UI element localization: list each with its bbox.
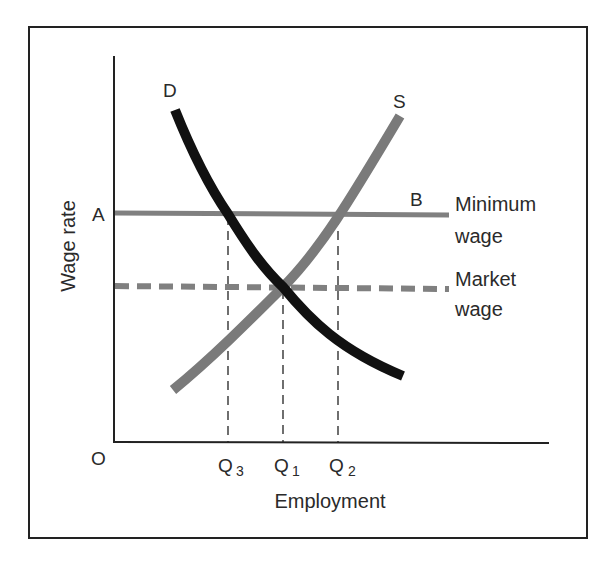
wage-diagram: D S A B Minimum wage Market wage O Q 3 Q…: [0, 0, 613, 564]
market-wage-label-line1: Market: [455, 268, 517, 290]
minimum-wage-line: [115, 213, 449, 215]
x-axis-title: Employment: [274, 490, 386, 512]
supply-curve: [173, 116, 400, 390]
demand-curve: [175, 110, 403, 376]
demand-label: D: [163, 80, 177, 101]
supply-label: S: [393, 91, 406, 112]
point-b-label: B: [410, 189, 423, 210]
minimum-wage-label-line1: Minimum: [455, 193, 536, 215]
svg-text:2: 2: [348, 463, 356, 479]
y-axis-title: Wage rate: [57, 200, 79, 292]
q2-label: Q 2: [329, 455, 356, 479]
svg-text:Q: Q: [329, 455, 344, 476]
origin-label: O: [91, 448, 106, 469]
q1-label: Q 1: [274, 455, 300, 479]
svg-text:1: 1: [292, 463, 300, 479]
q3-label: Q 3: [218, 455, 244, 479]
minimum-wage-label-line2: wage: [454, 225, 503, 247]
svg-text:3: 3: [236, 463, 244, 479]
x-axis: [113, 442, 549, 443]
svg-text:Q: Q: [274, 455, 289, 476]
market-wage-label-line2: wage: [454, 298, 503, 320]
svg-text:Q: Q: [218, 455, 233, 476]
point-a-label: A: [92, 204, 105, 225]
